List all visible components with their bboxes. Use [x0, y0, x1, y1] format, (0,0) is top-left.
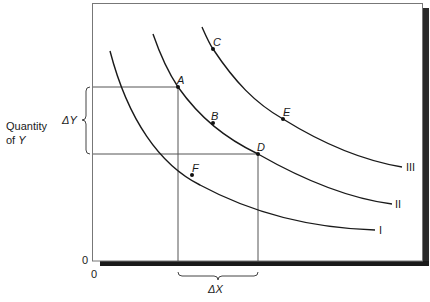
- point-a-label: A: [176, 74, 184, 86]
- y-axis-label-line1: Quantity: [6, 120, 47, 132]
- delta-x-label: ΔX: [207, 283, 223, 295]
- y-axis-label-line2: of Y: [6, 134, 26, 146]
- curve-iii-label: III: [406, 161, 415, 173]
- point-c-label: C: [213, 36, 221, 48]
- frame-shadow-right: [423, 8, 429, 266]
- indifference-curve-diagram: A B C D E F I II III ΔY Quantity of Y 0 …: [0, 0, 430, 302]
- frame-shadow-bottom: [100, 261, 429, 266]
- delta-y-brace: [82, 87, 90, 154]
- curve-i-label: I: [379, 224, 382, 236]
- delta-y-label: ΔY: [61, 114, 77, 126]
- curve-ii-label: II: [395, 198, 401, 210]
- y-axis-label-variable: Y: [18, 134, 26, 146]
- origin-x-label: 0: [91, 268, 97, 280]
- point-d-label: D: [257, 141, 265, 153]
- delta-x-brace: [178, 272, 258, 280]
- origin-y-label: 0: [82, 254, 88, 266]
- point-e-label: E: [283, 106, 291, 118]
- point-b-label: B: [211, 110, 218, 122]
- y-axis-label-prefix: of: [6, 134, 18, 146]
